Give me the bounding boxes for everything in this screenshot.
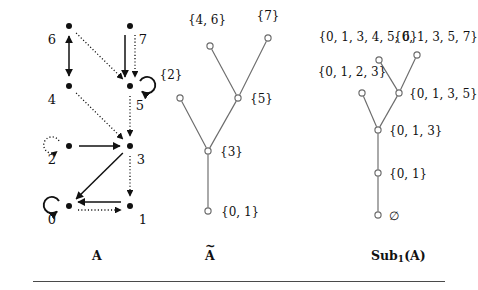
sub1-edge-s01357-s0135: [401, 58, 416, 89]
atilde-node-t2: [177, 95, 183, 101]
sub1-label-s01: {0, 1}: [389, 167, 427, 181]
sub1-label-sempty: ∅: [389, 209, 399, 223]
atilde-label-t46: {4, 6}: [188, 13, 226, 27]
atilde-node-t3: [205, 148, 211, 154]
atilde-node-t5: [235, 95, 241, 101]
graph-node-label-6: 6: [48, 32, 56, 47]
caption-sub-suffix: (A): [404, 248, 426, 263]
sub1-node-s01: [375, 170, 381, 176]
atilde-label-t01: {0, 1}: [221, 205, 259, 219]
graph-node-0: [66, 203, 72, 209]
graph-node-label-0: 0: [48, 212, 56, 227]
figure-canvas: 67452301 {4, 6}{7}{2}{5}{3}{0, 1} {0, 1,…: [0, 0, 478, 290]
panel-a-nodes: [66, 23, 133, 209]
atilde-node-t01: [205, 208, 211, 214]
self-loop-2: [44, 137, 59, 153]
tree-atilde-edges: [182, 41, 267, 207]
graph-node-1: [127, 203, 133, 209]
sub1-edge-s0135-s013: [380, 96, 397, 127]
atilde-label-t5: {5}: [250, 92, 273, 106]
tree-atilde-labels: {4, 6}{7}{2}{5}{3}{0, 1}: [160, 9, 280, 219]
sub1-label-s01357: {0, 1, 3, 5, 7}: [394, 30, 478, 44]
sub1-node-s01357: [414, 52, 420, 58]
figure-container: 67452301 {4, 6}{7}{2}{5}{3}{0, 1} {0, 1,…: [0, 0, 478, 290]
edge-6-to-5-dotted: [76, 33, 123, 79]
caption-sub1-a: Sub1(A): [371, 248, 426, 264]
sub1-label-s013: {0, 1, 3}: [389, 124, 442, 138]
sub1-label-s0123: {0, 1, 2, 3}: [318, 65, 387, 79]
atilde-edge-t46-t5: [212, 49, 237, 95]
self-loop-0: [44, 197, 59, 213]
sub1-node-s013: [375, 127, 381, 133]
graph-node-label-5: 5: [136, 98, 144, 113]
edge-4-to-3-dotted: [76, 93, 123, 139]
graph-node-label-1: 1: [139, 212, 147, 227]
atilde-node-t46: [207, 43, 213, 49]
graph-node-2: [66, 143, 72, 149]
atilde-edge-t2-t3: [182, 101, 207, 148]
graph-node-4: [66, 83, 72, 89]
graph-node-label-4: 4: [48, 92, 56, 107]
self-loop-5: [140, 77, 155, 93]
graph-node-label-7: 7: [139, 32, 147, 47]
graph-node-7: [127, 23, 133, 29]
sub1-edge-s0123-s013: [363, 96, 376, 126]
edge-3-to-0-solid: [76, 153, 123, 199]
tree-atilde-nodes: [177, 35, 271, 214]
panel-a-node-labels: 67452301: [48, 32, 147, 227]
sub1-label-s0135: {0, 1, 3, 5}: [409, 87, 478, 101]
atilde-label-t3: {3}: [220, 145, 243, 159]
atilde-label-t2: {2}: [160, 68, 183, 82]
graph-node-5: [127, 83, 133, 89]
sub1-node-s0135: [396, 90, 402, 96]
sub1-node-s013456: [376, 57, 382, 63]
panel-a-edges: [44, 33, 156, 213]
caption-graph-a: A: [92, 248, 102, 263]
tilde-accent: ~: [205, 240, 215, 253]
atilde-edge-t7-t5: [240, 41, 267, 95]
sub1-node-s0123: [359, 90, 365, 96]
sub1-node-sempty: [375, 212, 381, 218]
atilde-edge-t5-t3: [210, 101, 236, 148]
graph-node-6: [66, 23, 72, 29]
atilde-label-t7: {7}: [257, 9, 280, 23]
caption-sub-prefix: Sub: [371, 248, 398, 263]
graph-node-label-3: 3: [137, 152, 145, 167]
caption-quotient-atilde: ~ A: [205, 248, 215, 263]
graph-node-3: [127, 143, 133, 149]
tree-sub1-labels: {0, 1, 3, 4, 5, 6}{0, 1, 3, 5, 7}{0, 1, …: [318, 30, 478, 223]
horizontal-rule: [33, 281, 445, 282]
atilde-node-t7: [265, 35, 271, 41]
graph-node-label-2: 2: [48, 152, 56, 167]
